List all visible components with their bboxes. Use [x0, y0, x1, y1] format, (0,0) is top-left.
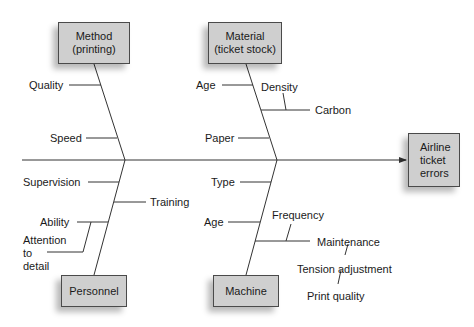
cause-supervision: Supervision — [23, 176, 80, 189]
personnel-title: Personnel — [69, 285, 119, 298]
material-title-1: Material — [225, 30, 264, 42]
material-title-2: (ticket stock) — [214, 43, 276, 55]
density-branch — [283, 93, 286, 110]
cause-training: Training — [150, 196, 189, 209]
machine-title: Machine — [225, 285, 267, 298]
cause-maintenance: Maintenance — [317, 236, 380, 249]
cause-material-age: Age — [196, 79, 216, 92]
attention-line-3: detail — [23, 260, 49, 272]
cause-machine-age: Age — [204, 216, 224, 229]
cause-paper: Paper — [205, 132, 234, 145]
attention-line-1: Attention — [23, 234, 66, 246]
method-title-1: Method — [76, 30, 113, 42]
attention-line-2: to — [23, 247, 32, 259]
cause-ability: Ability — [40, 216, 69, 229]
cause-type: Type — [211, 176, 235, 189]
cause-quality: Quality — [29, 79, 63, 92]
effect-line-2: ticket — [420, 154, 446, 166]
cause-tension-adjustment: Tension adjustment — [297, 263, 392, 276]
cause-print-quality: Print quality — [307, 290, 364, 303]
method-box: Method (printing) — [58, 22, 130, 64]
cause-frequency: Frequency — [272, 209, 324, 222]
personnel-box: Personnel — [61, 275, 127, 307]
material-bone — [246, 64, 277, 160]
personnel-bone — [94, 160, 125, 275]
cause-carbon: Carbon — [315, 104, 351, 117]
cause-speed: Speed — [50, 132, 82, 145]
effect-box: Airline ticket errors — [408, 133, 460, 187]
method-title-2: (printing) — [72, 43, 115, 55]
cause-density: Density — [261, 81, 298, 94]
machine-box: Machine — [213, 275, 279, 307]
frequency-branch — [286, 224, 291, 241]
attention-branch-d — [83, 222, 91, 252]
effect-line-3: errors — [420, 167, 449, 179]
method-bone — [94, 64, 125, 160]
cause-attention-to-detail: Attention to detail — [23, 234, 66, 273]
effect-line-1: Airline — [420, 141, 451, 153]
material-box: Material (ticket stock) — [208, 22, 282, 64]
